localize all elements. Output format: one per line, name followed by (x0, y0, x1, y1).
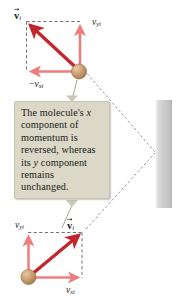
top-vector-symbol: v (14, 10, 19, 21)
bottom-velocity-vector-arrow (31, 236, 79, 276)
bottom-velocity-vector-label: vi (67, 221, 74, 232)
bottom-x-component-label: vxi (66, 285, 75, 296)
bottom-y-component-subscript: yi (19, 223, 23, 230)
top-molecule (71, 64, 86, 79)
top-y-component-subscript: yi (96, 20, 100, 27)
bottom-panel-graphic (21, 205, 82, 285)
bottom-y-component-label: vyi (15, 220, 24, 231)
callout-line-6: remains (21, 169, 54, 180)
callout-italic-x: x (87, 107, 92, 118)
callout-box: The molecule's xcomponent ofmomentum isr… (14, 101, 110, 199)
callout-line-3: momentum is (21, 132, 78, 143)
callout-text: The molecule's xcomponent ofmomentum isr… (21, 107, 104, 194)
bottom-vector-symbol: v (67, 220, 72, 231)
bottom-molecule (21, 269, 36, 284)
top-velocity-vector-arrow (31, 26, 79, 70)
callout-line-4: reversed, whereas (21, 144, 96, 155)
callout-line-1: The molecule's (21, 107, 87, 118)
callout-pointer-bottom (66, 200, 78, 207)
top-x-component-subscript: xi (39, 82, 43, 89)
callout-line-5a: its (21, 157, 34, 168)
top-vector-subscript: i (19, 14, 21, 21)
callout-line-2: component of (21, 119, 79, 130)
wall (156, 100, 173, 208)
bottom-vector-subscript: i (72, 224, 74, 231)
callout-line-5b: component (38, 157, 87, 168)
callout-line-7: unchanged. (21, 181, 69, 192)
molecule-wall-collision-figure: vi vyi −vxi The molecule's xcomponent of… (0, 0, 180, 307)
bottom-x-component-subscript: xi (70, 288, 74, 295)
top-x-component-label: −vxi (28, 79, 43, 90)
top-y-component-label: vyi (92, 17, 101, 28)
top-velocity-vector-label: vi (14, 11, 21, 22)
